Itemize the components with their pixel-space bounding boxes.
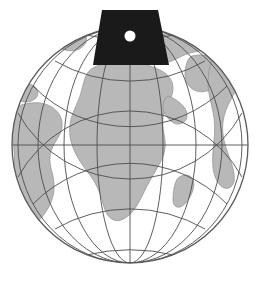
scandinavia-landmass bbox=[185, 17, 223, 37]
central-america-landmass bbox=[14, 84, 38, 102]
globe-diagram bbox=[0, 0, 260, 281]
greenland-landmass bbox=[53, 29, 87, 51]
figure-root: Earth globe orthographic projection Cove… bbox=[0, 0, 260, 281]
footprint-center-marker bbox=[125, 31, 136, 42]
